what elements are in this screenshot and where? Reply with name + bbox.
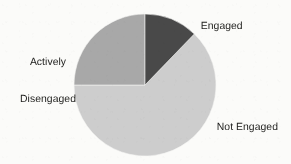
pie-label-actively-disengaged-line2: Disengaged (6, 94, 90, 106)
pie-label-not-engaged-text: Not Engaged (217, 122, 278, 133)
pie-label-actively-disengaged: Actively Disengaged (6, 32, 90, 131)
pie-chart-figure: Engaged Actively Disengaged Not Engaged (0, 0, 291, 164)
pie-label-not-engaged: Not Engaged (205, 110, 278, 147)
pie-label-engaged-text: Engaged (201, 21, 243, 32)
pie-label-engaged: Engaged (189, 9, 243, 46)
pie-label-actively-disengaged-line1: Actively (6, 57, 90, 69)
